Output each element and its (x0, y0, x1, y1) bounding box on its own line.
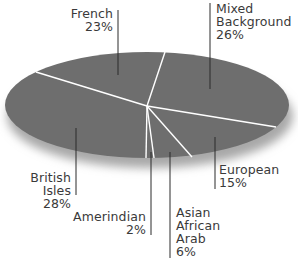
label-european-value: 15% (219, 176, 298, 189)
label-mixed-value: 26% (216, 28, 298, 41)
label-amerindian-value: 2% (60, 223, 146, 236)
label-asian-value: 6% (176, 245, 246, 258)
label-french: French 23% (60, 7, 113, 33)
label-asian: Asian African Arab 6% (176, 206, 246, 258)
label-british-value: 28% (0, 197, 71, 210)
label-mixed: Mixed Background 26% (216, 2, 298, 41)
label-amerindian: Amerindian 2% (60, 210, 146, 236)
label-european: European 15% (219, 163, 298, 189)
label-french-value: 23% (60, 20, 113, 33)
label-british-name: British Isles (0, 171, 71, 197)
label-british: British Isles 28% (0, 171, 71, 210)
